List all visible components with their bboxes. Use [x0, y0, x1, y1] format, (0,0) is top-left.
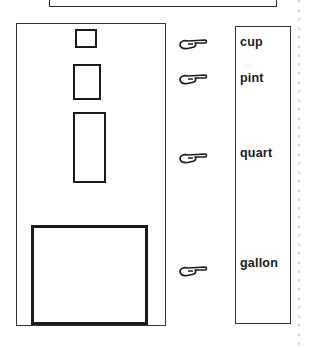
page-edge-perforation: [298, 0, 300, 347]
unit-label-cup: cup: [240, 35, 263, 49]
gallon-size-shape: [31, 225, 148, 325]
unit-label-quart: quart: [240, 146, 272, 160]
unit-label-gallon: gallon: [240, 256, 278, 270]
unit-label-pint: pint: [240, 71, 264, 85]
pointing-hand-icon: [178, 264, 208, 278]
pointing-hand-icon: [178, 151, 208, 165]
top-answer-box: [49, 0, 277, 7]
cup-size-shape: [75, 29, 97, 48]
pint-size-shape: [73, 64, 101, 100]
pointing-hand-icon: [178, 72, 208, 86]
quart-size-shape: [73, 112, 106, 183]
pointing-hand-icon: [178, 37, 208, 51]
